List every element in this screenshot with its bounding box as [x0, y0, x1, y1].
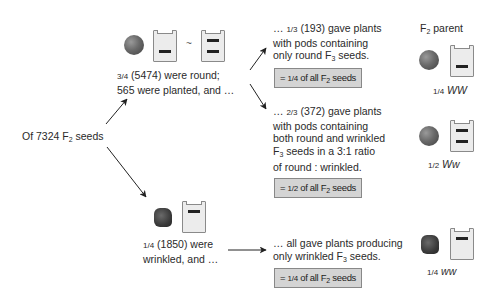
arrows-layer — [0, 0, 495, 297]
b2-frac: 1/2 — [288, 184, 298, 193]
b1-mid: of all F — [298, 72, 326, 83]
o2-line4-post: seeds in a 3:1 ratio — [283, 145, 375, 157]
round-line2: 565 were planted, and … — [117, 84, 234, 96]
wrinkled-line2: wrinkled, and … — [143, 253, 218, 265]
b3-mid: of all F — [298, 272, 326, 283]
parent-Ww-label: 1/2 Ww — [428, 158, 460, 173]
round-branch-label: 3/4 (5474) were round; 565 were planted,… — [117, 69, 234, 96]
round-seed-icon — [124, 35, 144, 55]
o2-prefix: … — [273, 105, 286, 117]
parent-WW-pod-icon — [450, 45, 474, 77]
parent-ww-pod-icon — [450, 228, 474, 260]
proportion-box-quarter-wrinkled: = 1/4 of all F2 seeds — [274, 268, 362, 288]
pod-ww-wrinkled-icon — [182, 201, 206, 233]
o2-frac: 2/3 — [286, 108, 297, 117]
proportion-box-half: = 1/2 of all F2 seeds — [274, 178, 362, 198]
b2-post: seeds — [330, 182, 356, 193]
b1-pre: = — [280, 72, 288, 83]
wrinkled-frac: 1/4 — [143, 241, 154, 250]
parent-Ww-pod-icon — [450, 120, 474, 152]
o3-line1: … all gave plants producing — [273, 237, 403, 249]
arrow-root-to-wrinkled — [107, 147, 146, 197]
ph-post: parent — [430, 22, 463, 34]
outcome-wrinkled: … all gave plants producing only wrinkle… — [273, 237, 403, 266]
parent-Ww-seed-icon — [419, 126, 439, 146]
pod-Ww-icon — [201, 30, 225, 62]
round-frac: 3/4 — [117, 72, 128, 81]
root-text-post: seeds — [73, 130, 104, 142]
parent-ww-seed-icon — [421, 235, 439, 254]
o1-line2: with pods containing — [273, 37, 368, 49]
o1-frac: 1/3 — [286, 25, 297, 34]
b2-mid: of all F — [298, 182, 326, 193]
p3-frac: 1/4 — [427, 268, 438, 277]
p1-genotype: WW — [447, 84, 467, 96]
o2-line5: of round : wrinkled. — [273, 161, 362, 173]
parent-header: F2 parent — [420, 22, 463, 39]
p2-genotype: Ww — [442, 158, 460, 170]
o1-line1: (193) gave plants — [298, 22, 382, 34]
parent-ww-label: 1/4 ww — [427, 265, 456, 280]
pod-ww-icon — [153, 30, 177, 62]
p1-frac: 1/4 — [433, 87, 444, 96]
wrinkled-seed-icon — [154, 208, 172, 227]
o2-line2: with pods containing — [273, 120, 368, 132]
b3-frac: 1/4 — [288, 274, 298, 283]
outcome-homozygous-round: … 1/3 (193) gave plants with pods contai… — [273, 22, 382, 66]
round-line1: (5474) were round; — [128, 69, 220, 81]
o3-line2: only wrinkled F — [273, 250, 343, 262]
p2-frac: 1/2 — [428, 161, 439, 170]
arrow-round-to-homozygous — [250, 48, 266, 70]
o2-line1: (372) gave plants — [298, 105, 382, 117]
b1-frac: 1/4 — [288, 74, 298, 83]
b3-pre: = — [280, 272, 288, 283]
outcome-heterozygous: … 2/3 (372) gave plants with pods contai… — [273, 105, 385, 174]
parent-WW-label: 1/4 WW — [433, 84, 467, 99]
o3-line2-post: seeds. — [347, 250, 381, 262]
b2-pre: = — [280, 182, 288, 193]
arrow-round-to-heterozygous — [250, 84, 266, 109]
tilde: ~ — [186, 38, 192, 49]
wrinkled-line1: (1850) were — [154, 238, 213, 250]
parent-WW-seed-icon — [419, 50, 439, 70]
arrow-root-to-round — [106, 99, 127, 124]
o1-line3: only round F — [273, 49, 331, 61]
proportion-box-quarter-round: = 1/4 of all F2 seeds — [274, 68, 362, 88]
p3-genotype: ww — [441, 265, 456, 277]
o1-prefix: … — [273, 22, 286, 34]
o2-line3: both round and wrinkled — [273, 132, 385, 144]
wrinkled-branch-label: 1/4 (1850) were wrinkled, and … — [143, 238, 218, 265]
b3-post: seeds — [330, 272, 356, 283]
root-text: Of 7324 F — [22, 130, 69, 142]
o1-line3-post: seeds. — [335, 49, 369, 61]
b1-post: seeds — [330, 72, 356, 83]
root-label: Of 7324 F2 seeds — [22, 130, 104, 147]
